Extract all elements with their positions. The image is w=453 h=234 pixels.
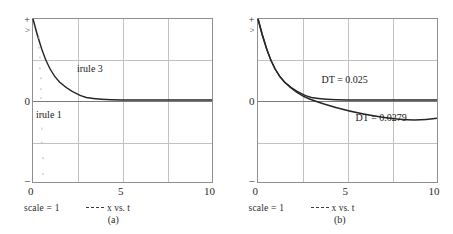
x-tick-0: 0: [28, 186, 34, 197]
x-tick-10: 10: [429, 186, 440, 197]
x-tick-0: 0: [253, 186, 259, 197]
plot-area-b: DT = 0.025 DT = 0.0279: [257, 18, 438, 183]
legend-label-a: x vs. t: [107, 203, 130, 213]
dashed-line-icon: [311, 207, 329, 208]
figure-two-panel-plots: + > 0 –: [0, 0, 453, 234]
y-axis-zero-label: 0: [233, 96, 255, 107]
panel-a: + > 0 –: [0, 0, 227, 234]
caption-a: (a): [0, 214, 227, 225]
y-axis-caret-label: >: [233, 26, 255, 35]
annotation-dt-lower: DT = 0.0279: [356, 112, 407, 123]
caption-b: (b): [227, 214, 453, 225]
curves-a: [33, 19, 212, 182]
legend-b: x vs. t: [311, 203, 355, 213]
annotation-dt-upper: DT = 0.025: [322, 74, 368, 85]
curve-dt-0025: [258, 19, 437, 100]
legend-a: x vs. t: [86, 203, 130, 213]
dashed-line-icon: [86, 207, 104, 208]
curve-irule-3: [33, 19, 212, 100]
y-axis-minus-label: –: [8, 176, 30, 186]
curve-irule-1: [39, 37, 43, 175]
y-axis-plus-label: +: [233, 15, 255, 25]
scale-text-b: scale = 1: [249, 203, 285, 213]
curve-dt-00279: [258, 19, 437, 120]
scale-text-a: scale = 1: [24, 203, 60, 213]
curves-b: [258, 19, 437, 182]
plot-area-a: irule 3 irule 1: [32, 18, 213, 183]
x-tick-10: 10: [204, 186, 215, 197]
x-tick-5: 5: [343, 186, 349, 197]
legend-label-b: x vs. t: [332, 203, 355, 213]
y-axis-caret-label: >: [8, 26, 30, 35]
y-axis-minus-label: –: [233, 176, 255, 186]
panel-b: + > 0 – DT = 0.025 DT = 0.0279 0 5 10 sc…: [227, 0, 453, 234]
y-axis-zero-label: 0: [8, 96, 30, 107]
annotation-irule-1: irule 1: [36, 109, 62, 120]
x-tick-5: 5: [118, 186, 124, 197]
y-axis-plus-label: +: [8, 15, 30, 25]
annotation-irule-3: irule 3: [77, 63, 103, 74]
